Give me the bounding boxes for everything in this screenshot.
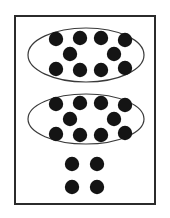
dot bbox=[118, 33, 132, 47]
dot bbox=[73, 128, 87, 142]
dot-groups-figure bbox=[0, 0, 170, 218]
dot bbox=[90, 180, 104, 194]
dot bbox=[118, 126, 132, 140]
dot bbox=[63, 47, 77, 61]
dot bbox=[118, 98, 132, 112]
dot bbox=[73, 63, 87, 77]
dot bbox=[73, 96, 87, 110]
dot bbox=[118, 61, 132, 75]
dot bbox=[49, 32, 63, 46]
dot bbox=[49, 62, 63, 76]
group-of-ten-top bbox=[28, 28, 144, 82]
dot bbox=[107, 112, 121, 126]
dot bbox=[94, 128, 108, 142]
dot bbox=[49, 97, 63, 111]
dot bbox=[94, 63, 108, 77]
figure-canvas bbox=[0, 0, 170, 218]
dot bbox=[107, 47, 121, 61]
dot bbox=[94, 31, 108, 45]
group-of-ten-middle bbox=[28, 94, 144, 144]
dot bbox=[73, 31, 87, 45]
dot bbox=[63, 112, 77, 126]
dot bbox=[65, 180, 79, 194]
dot bbox=[49, 127, 63, 141]
dot bbox=[90, 157, 104, 171]
dot bbox=[94, 96, 108, 110]
dot bbox=[65, 157, 79, 171]
